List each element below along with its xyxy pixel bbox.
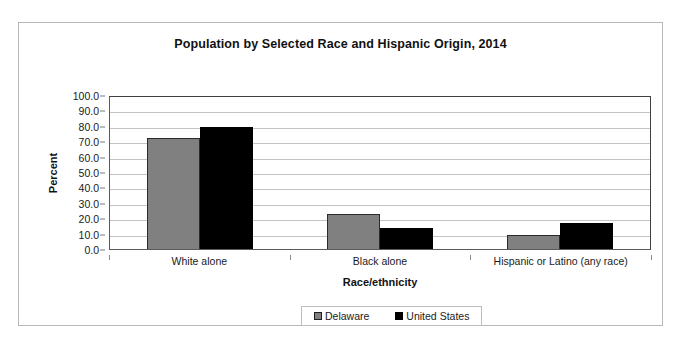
y-tick-label: 100.0 xyxy=(73,90,99,102)
legend-swatch-icon xyxy=(395,312,403,320)
y-tick-label: 60.0 xyxy=(79,152,99,164)
y-tick-mark xyxy=(100,111,105,112)
x-tick-label: White alone xyxy=(109,255,290,267)
y-tick-label: 0.0 xyxy=(84,244,99,256)
bar-group xyxy=(110,97,290,249)
bar-delaware-hispanic-or-latino-any-race-[interactable] xyxy=(507,235,560,249)
bar-delaware-black-alone[interactable] xyxy=(327,214,380,249)
x-tick-mark xyxy=(109,255,110,260)
y-tick-label: 30.0 xyxy=(79,198,99,210)
y-tick-mark xyxy=(100,96,105,97)
y-tick-label: 80.0 xyxy=(79,121,99,133)
x-tick-mark xyxy=(290,255,291,260)
x-tick-label: Black alone xyxy=(290,255,471,267)
y-axis-tick-labels: 100.090.080.070.060.050.040.030.020.010.… xyxy=(61,96,105,250)
y-tick-mark xyxy=(100,126,105,127)
legend-item-united-states[interactable]: United States xyxy=(395,310,469,322)
y-tick-mark xyxy=(100,157,105,158)
y-axis-title-label: Percent xyxy=(47,153,59,193)
y-tick-label: 10.0 xyxy=(79,229,99,241)
bar-group xyxy=(290,97,470,249)
bar-delaware-white-alone[interactable] xyxy=(147,138,200,249)
x-tick-mark xyxy=(651,255,652,260)
legend-item-label: United States xyxy=(406,310,469,322)
bars-layer xyxy=(110,97,650,249)
y-tick-mark xyxy=(100,250,105,251)
y-tick-label: 70.0 xyxy=(79,136,99,148)
y-tick-mark xyxy=(100,142,105,143)
plot-wrapper: 100.090.080.070.060.050.040.030.020.010.… xyxy=(109,96,651,250)
bar-united-states-hispanic-or-latino-any-race-[interactable] xyxy=(560,223,613,249)
y-tick-mark xyxy=(100,234,105,235)
y-tick-mark xyxy=(100,173,105,174)
legend-swatch-icon xyxy=(314,312,322,320)
bar-united-states-black-alone[interactable] xyxy=(380,228,433,249)
y-tick-mark xyxy=(100,188,105,189)
x-tick-label: Hispanic or Latino (any race) xyxy=(470,255,651,267)
legend-item-label: Delaware xyxy=(325,310,369,322)
chart-title: Population by Selected Race and Hispanic… xyxy=(19,37,662,51)
plot-area xyxy=(109,96,651,250)
x-tick-mark xyxy=(470,255,471,260)
bar-group xyxy=(470,97,650,249)
chart-frame: Population by Selected Race and Hispanic… xyxy=(18,22,663,326)
y-axis-title: Percent xyxy=(45,96,61,250)
chart-legend: DelawareUnited States xyxy=(301,306,482,326)
legend-item-delaware[interactable]: Delaware xyxy=(314,310,369,322)
y-tick-mark xyxy=(100,203,105,204)
y-tick-mark xyxy=(100,219,105,220)
y-tick-label: 50.0 xyxy=(79,167,99,179)
x-axis-title: Race/ethnicity xyxy=(109,276,651,288)
y-tick-label: 90.0 xyxy=(79,105,99,117)
y-tick-label: 40.0 xyxy=(79,182,99,194)
x-axis-tick-labels: White aloneBlack aloneHispanic or Latino… xyxy=(109,255,651,267)
y-tick-label: 20.0 xyxy=(79,213,99,225)
bar-united-states-white-alone[interactable] xyxy=(200,127,253,249)
